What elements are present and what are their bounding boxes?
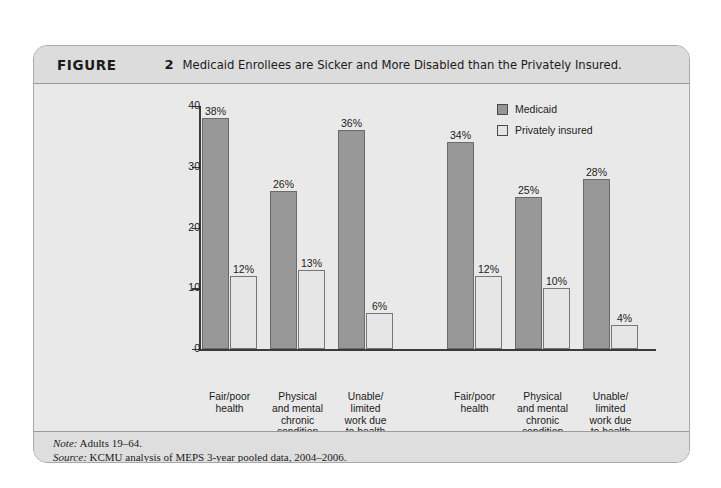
- figure-header: FIGURE 2 Medicaid Enrollees are Sicker a…: [34, 46, 689, 84]
- x-axis-line: [199, 349, 656, 351]
- bar-value-label: 4%: [617, 312, 632, 324]
- bar-value-label: 34%: [450, 129, 471, 141]
- source-key: Source:: [53, 451, 87, 463]
- category-label-line: chronic: [281, 415, 314, 426]
- bar-privately-insured: 12%: [475, 276, 502, 349]
- bar-value-label: 12%: [478, 263, 499, 275]
- y-axis-tick-label: 10: [178, 281, 200, 293]
- note-key: Note:: [53, 437, 77, 449]
- category-label-line: Unable/: [348, 391, 384, 402]
- category-label: Fair/poorhealth: [194, 391, 266, 415]
- bar-medicaid: 38%: [202, 118, 229, 349]
- bar-value-label: 6%: [372, 300, 387, 312]
- figure-note: Note: Adults 19–64.: [53, 437, 689, 451]
- chart-area: Medicaid Privately insured 010203040 38%…: [34, 84, 689, 431]
- figure-card: FIGURE 2 Medicaid Enrollees are Sicker a…: [33, 45, 690, 463]
- category-label-line: limited: [596, 403, 626, 414]
- bar-privately-insured: 4%: [611, 325, 638, 349]
- plot-region: 010203040 38%12%26%13%36%6%34%12%25%10%2…: [166, 106, 656, 354]
- category-label-line: limited: [351, 403, 381, 414]
- bar-value-label: 12%: [233, 263, 254, 275]
- category-label-line: and mental: [517, 403, 568, 414]
- bar-medicaid: 25%: [515, 197, 542, 349]
- category-label-line: and mental: [272, 403, 323, 414]
- bar-value-label: 10%: [546, 275, 567, 287]
- bar-value-label: 36%: [341, 117, 362, 129]
- bar-privately-insured: 12%: [230, 276, 257, 349]
- note-text: Adults 19–64.: [77, 437, 141, 449]
- category-label: Fair/poorhealth: [439, 391, 511, 415]
- bar-value-label: 25%: [518, 184, 539, 196]
- category-label-line: Physical: [278, 391, 316, 402]
- bar-value-label: 38%: [205, 105, 226, 117]
- category-label-line: chronic: [526, 415, 559, 426]
- y-axis-tick-label: 0: [178, 342, 200, 354]
- bar-privately-insured: 13%: [298, 270, 325, 349]
- bar-value-label: 26%: [273, 178, 294, 190]
- category-label-line: Fair/poor: [454, 391, 495, 402]
- source-text: KCMU analysis of MEPS 3-year pooled data…: [87, 451, 347, 463]
- category-label-line: work due: [590, 415, 632, 426]
- figure-footer: Note: Adults 19–64. Source: KCMU analysi…: [34, 431, 689, 463]
- category-label-line: Unable/: [593, 391, 629, 402]
- category-label-line: Physical: [523, 391, 561, 402]
- figure-source: Source: KCMU analysis of MEPS 3-year poo…: [53, 451, 689, 464]
- bar-medicaid: 36%: [338, 130, 365, 349]
- category-label-line: work due: [345, 415, 387, 426]
- bar-medicaid: 28%: [583, 179, 610, 349]
- bar-privately-insured: 6%: [366, 313, 393, 349]
- figure-title: Medicaid Enrollees are Sicker and More D…: [183, 58, 622, 72]
- y-axis-tick-label: 30: [178, 160, 200, 172]
- figure-label: FIGURE: [57, 57, 117, 73]
- bar-privately-insured: 10%: [543, 288, 570, 349]
- category-label-line: Fair/poor: [209, 391, 250, 402]
- category-label-line: health: [215, 403, 243, 414]
- y-axis-tick-label: 40: [178, 99, 200, 111]
- bar-medicaid: 34%: [447, 142, 474, 349]
- bar-value-label: 28%: [586, 166, 607, 178]
- y-axis-tick-label: 20: [178, 221, 200, 233]
- bar-value-label: 13%: [301, 257, 322, 269]
- category-label-line: health: [460, 403, 488, 414]
- bar-medicaid: 26%: [270, 191, 297, 349]
- figure-number: 2: [165, 57, 174, 72]
